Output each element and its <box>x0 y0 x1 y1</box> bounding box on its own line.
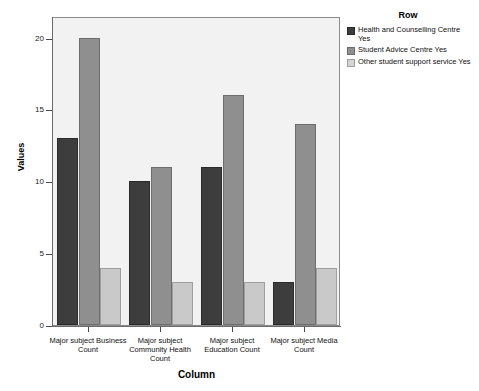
bar <box>244 282 265 325</box>
legend-swatch-icon <box>347 27 355 35</box>
legend-item[interactable]: Student Advice Centre Yes <box>347 46 477 55</box>
bar <box>79 38 100 325</box>
bar-chart: 05101520 Values Major subject Business C… <box>0 0 479 391</box>
x-axis-tick-label: Major subject Education Count <box>192 336 272 354</box>
bar <box>57 138 78 325</box>
x-axis-tick-label: Major subject Business Count <box>48 336 128 354</box>
legend-item[interactable]: Health and Counselling Centre Yes <box>347 26 477 43</box>
legend-item-label: Student Advice Centre Yes <box>358 46 474 55</box>
plot-area <box>52 17 340 326</box>
legend-swatch-icon <box>347 59 355 67</box>
x-axis-tick <box>304 327 305 332</box>
y-axis-tick-label: 20 <box>0 35 44 43</box>
legend-swatch-icon <box>347 47 355 55</box>
bar <box>273 282 294 325</box>
bar <box>100 268 121 325</box>
x-axis-tick <box>232 327 233 332</box>
bar <box>316 268 337 325</box>
y-axis-line <box>52 17 53 327</box>
bars-layer <box>53 18 339 325</box>
y-axis-tick <box>46 39 52 40</box>
y-axis-tick <box>46 254 52 255</box>
bar <box>172 282 193 325</box>
x-axis-title: Column <box>52 369 341 380</box>
legend-item-label: Health and Counselling Centre Yes <box>358 26 474 43</box>
bar <box>295 124 316 325</box>
bar <box>151 167 172 325</box>
bar <box>223 95 244 325</box>
bar <box>129 181 150 325</box>
x-axis-tick-label: Major subject Community Health Count <box>120 336 200 363</box>
y-axis-tick <box>46 110 52 111</box>
y-axis-tick <box>46 182 52 183</box>
y-axis-title: Values <box>16 127 26 187</box>
y-axis-tick-label: 15 <box>0 106 44 114</box>
legend-title: Row <box>347 10 469 20</box>
y-axis-tick-label: 5 <box>0 250 44 258</box>
x-axis-tick <box>88 327 89 332</box>
legend-item-label: Other student support service Yes <box>358 58 474 67</box>
x-axis-tick-label: Major subject Media Count <box>264 336 344 354</box>
y-axis-tick-label: 0 <box>0 322 44 330</box>
legend: Row Health and Counselling Centre YesStu… <box>347 10 477 70</box>
x-axis-tick <box>160 327 161 332</box>
x-axis-line <box>52 326 341 327</box>
legend-item[interactable]: Other student support service Yes <box>347 58 477 67</box>
legend-items: Health and Counselling Centre YesStudent… <box>347 26 477 67</box>
bar <box>201 167 222 325</box>
